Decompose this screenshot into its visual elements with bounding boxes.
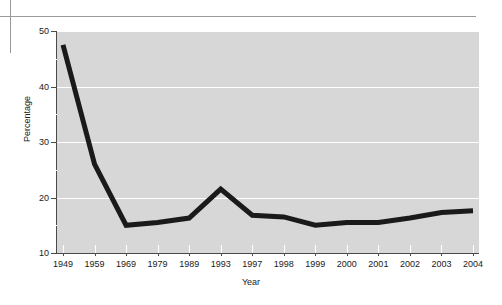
y-tick-major-50 — [51, 31, 57, 32]
y-tick-major-40 — [51, 87, 57, 88]
x-tick-base-1999 — [315, 253, 316, 256]
chart-figure: 1020304050 19491959196919791989199319971… — [0, 0, 502, 305]
x-tick-base-1949 — [63, 253, 64, 256]
x-tick-2004 — [473, 245, 474, 253]
x-tick-base-1959 — [95, 253, 96, 256]
x-tick-base-1997 — [252, 253, 253, 256]
x-tick-2000 — [347, 245, 348, 253]
series-line-percentage — [57, 31, 479, 253]
y-tick-label-20: 20 — [27, 193, 49, 203]
y-tick-minor-45 — [53, 59, 57, 60]
x-axis-title: Year — [0, 277, 502, 287]
y-tick-label-10: 10 — [27, 248, 49, 258]
x-tick-2002 — [410, 245, 411, 253]
x-tick-base-2003 — [441, 253, 442, 256]
x-tick-1999 — [315, 245, 316, 253]
plot-area — [57, 31, 479, 253]
x-tick-1959 — [95, 245, 96, 253]
y-tick-minor-15 — [53, 225, 57, 226]
x-tick-1949 — [63, 245, 64, 253]
x-tick-2001 — [378, 245, 379, 253]
y-tick-major-30 — [51, 142, 57, 143]
x-tick-1998 — [284, 245, 285, 253]
page-crop-rule-horizontal-icon — [0, 16, 476, 17]
y-tick-major-10 — [51, 253, 57, 254]
x-tick-label-2004: 2004 — [453, 259, 493, 269]
y-tick-major-20 — [51, 198, 57, 199]
y-axis-title: Percentage — [22, 96, 32, 142]
y-tick-minor-35 — [53, 114, 57, 115]
x-tick-base-2002 — [410, 253, 411, 256]
x-tick-base-2004 — [473, 253, 474, 256]
x-tick-1989 — [189, 245, 190, 253]
x-tick-1969 — [126, 245, 127, 253]
y-tick-label-40: 40 — [27, 82, 49, 92]
x-axis-line — [56, 253, 479, 254]
x-tick-base-1989 — [189, 253, 190, 256]
x-tick-base-1998 — [284, 253, 285, 256]
x-tick-1993 — [221, 245, 222, 253]
x-tick-base-1993 — [221, 253, 222, 256]
x-tick-2003 — [441, 245, 442, 253]
x-tick-1997 — [252, 245, 253, 253]
x-tick-base-1969 — [126, 253, 127, 256]
y-tick-label-50: 50 — [27, 26, 49, 36]
x-tick-1979 — [158, 245, 159, 253]
x-tick-base-2000 — [347, 253, 348, 256]
page-crop-rule-vertical-icon — [10, 0, 11, 53]
x-tick-base-2001 — [378, 253, 379, 256]
y-tick-minor-25 — [53, 170, 57, 171]
x-tick-base-1979 — [158, 253, 159, 256]
